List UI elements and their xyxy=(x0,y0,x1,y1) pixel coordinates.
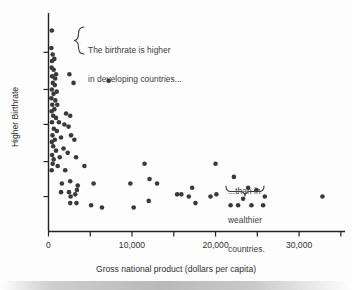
data-point xyxy=(63,168,68,173)
data-point xyxy=(64,111,69,116)
data-point xyxy=(55,164,60,169)
data-point xyxy=(54,116,59,121)
data-point xyxy=(57,155,62,160)
data-point xyxy=(49,109,54,114)
data-point xyxy=(59,190,64,195)
data-point xyxy=(68,113,73,118)
data-point xyxy=(213,161,218,166)
data-point xyxy=(50,87,55,92)
data-point xyxy=(49,96,54,101)
data-point xyxy=(320,194,325,199)
wealthier-countries-annotation: ...than in wealthier countries. xyxy=(228,168,265,274)
data-point xyxy=(51,68,56,73)
y-axis-title: Higher Birthrate xyxy=(10,79,20,155)
data-point xyxy=(75,183,80,188)
data-point xyxy=(50,161,55,166)
data-point xyxy=(50,153,55,158)
data-point xyxy=(190,186,195,191)
data-point xyxy=(52,57,57,62)
data-point xyxy=(57,120,62,125)
data-point xyxy=(50,28,55,33)
data-point xyxy=(54,72,59,77)
data-point xyxy=(68,201,73,206)
data-point xyxy=(75,188,80,193)
developing-annotation-line-1: The birthrate is higher xyxy=(88,46,182,56)
data-point xyxy=(49,168,54,173)
data-point xyxy=(68,179,73,184)
data-point xyxy=(89,203,94,208)
data-point xyxy=(179,192,184,197)
data-point xyxy=(50,102,55,107)
data-point xyxy=(91,181,96,186)
data-point xyxy=(50,133,55,138)
x-axis-title: Gross national product (dollars per capi… xyxy=(96,264,256,274)
developing-countries-annotation: The birthrate is higher in developing co… xyxy=(88,27,182,104)
data-point xyxy=(50,52,55,57)
data-point xyxy=(67,190,72,195)
data-point xyxy=(49,46,54,51)
data-point xyxy=(82,164,87,169)
data-point xyxy=(65,151,70,156)
data-point xyxy=(59,135,64,140)
x-tick-label: 20,000 xyxy=(186,240,246,250)
data-point xyxy=(208,194,213,199)
data-point xyxy=(68,194,73,199)
data-point xyxy=(50,120,55,125)
data-point xyxy=(146,199,151,204)
data-point xyxy=(62,122,67,127)
wealthier-annotation-line-1: ...than in xyxy=(228,187,265,197)
data-point xyxy=(193,201,198,206)
data-point xyxy=(69,133,74,138)
data-point xyxy=(71,81,76,86)
data-point xyxy=(61,146,66,151)
x-tick-marks xyxy=(49,232,341,237)
data-point xyxy=(55,129,60,134)
data-point xyxy=(54,148,59,153)
wealthier-annotation-line-2: wealthier xyxy=(228,216,265,226)
x-tick-label: 30,000 xyxy=(269,240,329,250)
chart-figure: The birthrate is higher in developing co… xyxy=(0,0,352,290)
data-point xyxy=(100,205,105,210)
data-point xyxy=(72,137,77,142)
bottom-gradient-bar xyxy=(0,281,352,290)
data-point xyxy=(53,76,58,81)
x-tick-label: 0 xyxy=(19,240,79,250)
data-point xyxy=(53,98,58,103)
data-point xyxy=(74,201,79,206)
y-tick-marks xyxy=(44,52,49,196)
data-point xyxy=(73,192,78,197)
data-point xyxy=(51,157,56,162)
data-point xyxy=(175,192,180,197)
data-point xyxy=(74,155,79,160)
x-tick-label: 10,000 xyxy=(102,240,162,250)
data-point xyxy=(51,144,56,149)
data-point xyxy=(128,181,133,186)
data-point xyxy=(55,102,60,107)
data-point xyxy=(60,181,65,186)
data-point xyxy=(214,192,219,197)
data-point xyxy=(66,124,71,129)
data-point xyxy=(51,92,56,97)
data-point xyxy=(147,177,152,182)
data-point xyxy=(131,205,136,210)
data-point xyxy=(50,140,55,145)
data-point xyxy=(187,194,192,199)
developing-annotation-line-2: in developing countries... xyxy=(88,75,182,85)
data-point xyxy=(67,72,72,77)
data-point xyxy=(155,181,160,186)
data-point xyxy=(142,161,147,166)
data-point xyxy=(53,83,58,88)
